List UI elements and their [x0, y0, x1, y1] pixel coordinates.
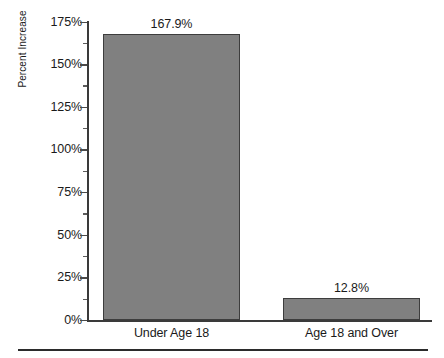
y-axis-major-tick [80, 320, 87, 321]
y-axis-major-tick [80, 64, 87, 65]
x-axis-category-label: Under Age 18 [83, 326, 260, 340]
bar [283, 298, 420, 320]
bar-chart-figure: Percent Increase 0%25%50%75%100%125%150%… [0, 0, 444, 358]
footer-rule [18, 349, 428, 351]
y-axis-major-tick [80, 235, 87, 236]
x-axis-line [87, 320, 432, 322]
y-axis-tick-label: 25% [34, 271, 82, 283]
y-axis-line [87, 21, 89, 321]
y-axis-tick-label: 0% [34, 314, 82, 326]
bar-value-label: 167.9% [103, 18, 240, 31]
bar-value-label: 12.8% [283, 282, 420, 295]
y-axis-major-tick [80, 277, 87, 278]
y-axis-major-tick [80, 192, 87, 193]
y-axis-tick-label: 150% [34, 58, 82, 70]
y-axis-tick-label-group: 0%25%50%75%100%125%150%175% [34, 0, 82, 358]
y-axis-major-tick [80, 149, 87, 150]
y-axis-tick-label: 100% [34, 143, 82, 155]
y-axis-tick-label: 125% [34, 101, 82, 113]
y-axis-major-tick [80, 107, 87, 108]
x-axis-category-label: Age 18 and Over [263, 326, 440, 340]
y-axis-major-tick [80, 22, 87, 23]
y-axis-title: Percent Increase [16, 0, 30, 114]
bar [103, 34, 240, 320]
y-axis-tick-label: 75% [34, 186, 82, 198]
y-axis-tick-label: 50% [34, 229, 82, 241]
y-axis-tick-label: 175% [34, 16, 82, 28]
